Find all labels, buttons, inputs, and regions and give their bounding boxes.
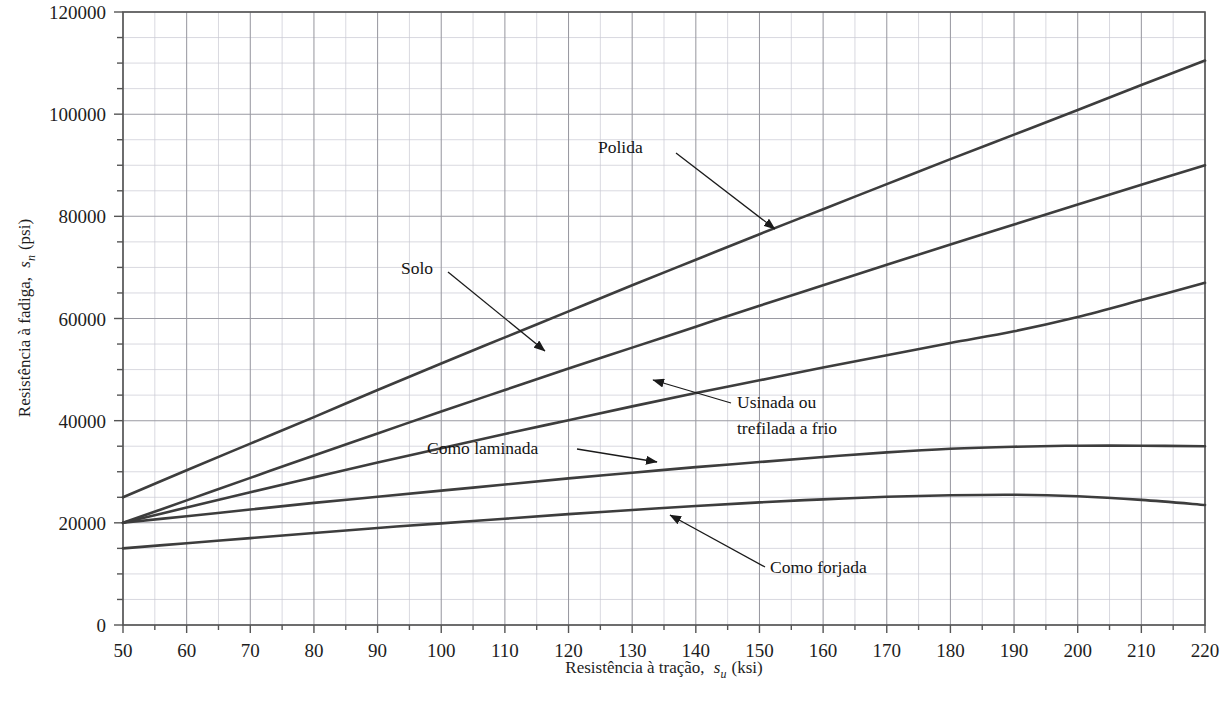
y-tick-label: 120000	[49, 2, 106, 23]
x-tick-label: 180	[936, 640, 965, 661]
x-tick-label: 200	[1063, 640, 1092, 661]
x-tick-label: 160	[809, 640, 838, 661]
y-tick-label: 60000	[59, 309, 107, 330]
x-tick-label: 80	[304, 640, 323, 661]
x-tick-label: 210	[1127, 640, 1156, 661]
x-tick-label: 190	[1000, 640, 1029, 661]
annotation-label: Como laminada	[427, 438, 539, 458]
x-tick-label: 110	[491, 640, 519, 661]
y-tick-label: 0	[97, 615, 107, 636]
x-tick-label: 50	[114, 640, 133, 661]
y-tick-label: 40000	[59, 411, 107, 432]
x-tick-label: 220	[1191, 640, 1220, 661]
annotation-label: Polida	[598, 137, 643, 157]
annotation-label-line2: trefilada a frio	[737, 418, 837, 438]
annotation-label: Solo	[401, 258, 433, 278]
annotation-label: Como forjada	[770, 557, 867, 577]
fatigue-strength-chart: 5060708090100110120130140150160170180190…	[0, 0, 1232, 708]
y-tick-label: 100000	[49, 104, 106, 125]
x-tick-label: 70	[241, 640, 260, 661]
y-tick-label: 20000	[59, 513, 107, 534]
y-tick-label: 80000	[59, 206, 107, 227]
chart-canvas: 5060708090100110120130140150160170180190…	[0, 0, 1232, 708]
x-tick-label: 170	[873, 640, 902, 661]
x-tick-label: 90	[368, 640, 387, 661]
annotation-label: Usinada ou	[737, 392, 816, 412]
x-tick-label: 100	[427, 640, 456, 661]
x-tick-label: 60	[177, 640, 196, 661]
